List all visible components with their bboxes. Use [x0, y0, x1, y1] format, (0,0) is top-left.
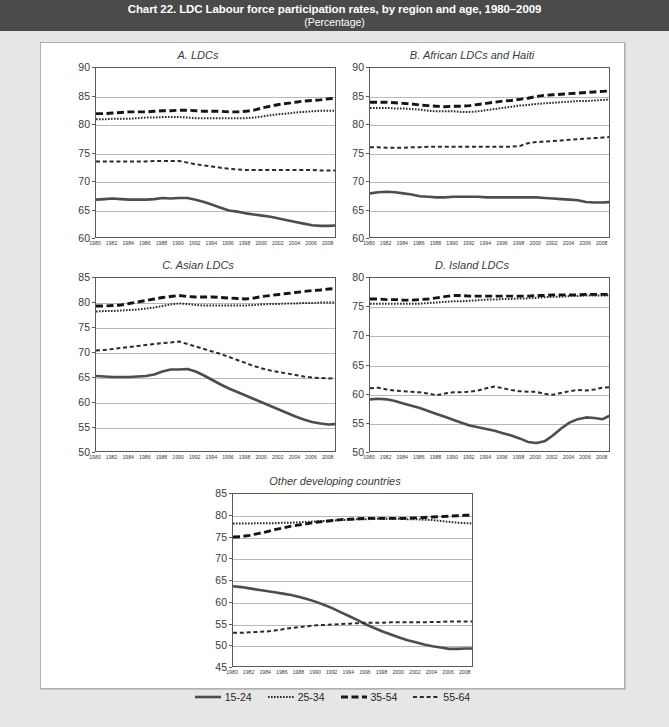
x-axis-tick-label: 1988 [430, 240, 442, 246]
x-axis-tick-label: 1988 [430, 454, 442, 460]
x-axis-tick-label: 2006 [579, 454, 591, 460]
x-axis-tick-label: 1980 [363, 240, 375, 246]
y-axis-tick-mark [229, 515, 232, 516]
panel-title-c: C. Asian LDCs [59, 259, 337, 271]
y-axis-tick-mark [92, 402, 95, 403]
x-axis-tick-label: 1990 [446, 240, 458, 246]
y-axis-tick-mark [229, 624, 232, 625]
legend-swatch-solid-icon [195, 692, 221, 702]
x-axis-tick-label: 2000 [255, 454, 267, 460]
x-axis-tick-label: 2002 [546, 240, 558, 246]
chart-panel-b: B. African LDCs and Haiti606570758085901… [333, 49, 611, 259]
series-layer [370, 278, 610, 452]
x-axis-tick-label: 1988 [156, 454, 168, 460]
x-axis-tick-label: 1982 [243, 669, 255, 675]
x-axis-tick-label: 1984 [122, 454, 134, 460]
chart-legend: 15-2425-3435-5455-64 [41, 691, 624, 703]
y-axis-tick-mark [366, 306, 369, 307]
y-axis-tick-mark [366, 365, 369, 366]
page-title: Chart 22. LDC Labour force participation… [0, 0, 669, 16]
y-axis-tick-label: 75 [78, 147, 90, 159]
y-axis-tick-label: 70 [352, 175, 364, 187]
y-axis-tick-mark [229, 602, 232, 603]
x-axis-tick-label: 1998 [376, 669, 388, 675]
y-axis-tick-mark [229, 580, 232, 581]
legend-item-55-64[interactable]: 55-64 [413, 691, 470, 703]
y-axis-tick-mark [92, 67, 95, 68]
legend-item-15-24[interactable]: 15-24 [195, 691, 252, 703]
x-axis-tick-label: 2000 [392, 669, 404, 675]
x-axis-tick-label: 2006 [305, 240, 317, 246]
series-line-35-54 [233, 515, 473, 537]
y-axis-tick-label: 65 [78, 371, 90, 383]
y-axis-tick-label: 90 [78, 61, 90, 73]
legend-item-25-34[interactable]: 25-34 [268, 691, 325, 703]
x-axis-tick-label: 1994 [343, 669, 355, 675]
x-axis-tick-label: 2004 [563, 240, 575, 246]
y-axis-tick-label: 55 [78, 421, 90, 433]
x-axis-tick-label: 2002 [409, 669, 421, 675]
y-axis-tick-mark [366, 153, 369, 154]
x-axis-tick-label: 1984 [122, 240, 134, 246]
y-axis-tick-label: 70 [352, 329, 364, 341]
y-axis-tick-mark [366, 423, 369, 424]
y-axis-tick-mark [229, 667, 232, 668]
y-axis-tick-mark [92, 302, 95, 303]
x-axis-tick-label: 2000 [529, 454, 541, 460]
x-axis-tick-label: 2004 [563, 454, 575, 460]
panel-title-d: D. Island LDCs [333, 259, 611, 271]
x-axis-tick-label: 2008 [596, 240, 608, 246]
series-line-55-64 [370, 387, 610, 396]
x-axis-tick-label: 2004 [426, 669, 438, 675]
y-axis-tick-mark [92, 238, 95, 239]
y-axis-tick-mark [366, 124, 369, 125]
x-axis-tick-label: 2008 [322, 454, 334, 460]
series-line-15-24 [96, 198, 336, 226]
x-axis-tick-label: 1984 [259, 669, 271, 675]
chart-panel-d: D. Island LDCs50556065707580198019821984… [333, 259, 611, 473]
legend-item-35-54[interactable]: 35-54 [341, 691, 398, 703]
y-axis-tick-mark [92, 181, 95, 182]
y-axis-tick-label: 75 [215, 531, 227, 543]
x-axis-tick-label: 1992 [463, 454, 475, 460]
legend-swatch-dashed-icon [341, 692, 367, 702]
y-axis-tick-mark [229, 537, 232, 538]
x-axis-tick-label: 1980 [226, 669, 238, 675]
series-line-55-64 [96, 161, 336, 171]
x-axis-tick-label: 2002 [272, 240, 284, 246]
page-subtitle: (Percentage) [0, 16, 669, 29]
panel-title-a: A. LDCs [59, 49, 337, 61]
y-axis-tick-mark [366, 335, 369, 336]
series-line-15-24 [233, 586, 473, 649]
y-axis-tick-mark [366, 210, 369, 211]
series-line-55-64 [233, 621, 473, 632]
y-axis-tick-label: 55 [352, 417, 364, 429]
x-axis-tick-label: 1992 [189, 240, 201, 246]
y-axis-tick-mark [229, 558, 232, 559]
y-axis-tick-label: 80 [352, 118, 364, 130]
x-axis-tick-label: 1982 [106, 240, 118, 246]
x-axis-tick-label: 1988 [293, 669, 305, 675]
x-axis-tick-label: 2004 [289, 240, 301, 246]
y-axis-tick-mark [366, 394, 369, 395]
x-axis-tick-label: 1986 [276, 669, 288, 675]
series-layer [96, 278, 336, 452]
plot-area-c [95, 277, 336, 452]
y-axis-tick-label: 85 [215, 487, 227, 499]
series-line-55-64 [96, 342, 336, 379]
y-axis-tick-mark [92, 452, 95, 453]
x-axis-tick-label: 1992 [189, 454, 201, 460]
panel-title-e: Other developing countries [196, 475, 474, 487]
plot-area-e [232, 493, 473, 667]
y-axis-tick-label: 85 [78, 271, 90, 283]
y-axis-tick-label: 70 [78, 346, 90, 358]
legend-label: 35-54 [371, 691, 398, 703]
x-axis-tick-label: 1994 [480, 240, 492, 246]
x-axis-tick-label: 2002 [272, 454, 284, 460]
x-axis-tick-label: 1982 [106, 454, 118, 460]
plot-area-b [369, 67, 610, 238]
x-axis-tick-label: 1982 [380, 454, 392, 460]
x-axis-tick-label: 1996 [496, 454, 508, 460]
legend-swatch-dash-sm-icon [413, 692, 439, 702]
x-axis-tick-label: 1996 [222, 240, 234, 246]
